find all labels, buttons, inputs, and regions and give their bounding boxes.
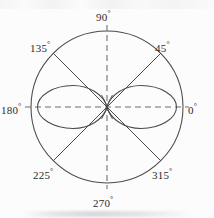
degree-symbol-icon: °: [194, 102, 197, 111]
polar-plot-canvas: [0, 0, 214, 218]
angle-label-270: 270°: [93, 196, 113, 209]
degree-symbol-icon: °: [47, 40, 50, 49]
degree-symbol-icon: °: [50, 167, 53, 176]
lemniscate-cusp-upper-left: [102, 95, 108, 107]
angle-label-315: 315°: [152, 168, 172, 181]
angle-label-225-value: 225: [33, 169, 50, 181]
degree-symbol-icon: °: [107, 9, 110, 18]
lemniscate-cusp-lower-left: [102, 107, 108, 119]
angle-label-90-value: 90: [96, 11, 107, 23]
angle-label-270-value: 270: [93, 197, 110, 209]
degree-symbol-icon: °: [166, 40, 169, 49]
angle-label-135-value: 135: [30, 42, 47, 54]
degree-symbol-icon: °: [18, 102, 21, 111]
angle-label-135: 135°: [30, 41, 50, 54]
degree-symbol-icon: °: [110, 195, 113, 204]
scan-artifact-bottom: [22, 211, 194, 217]
polar-plot-figure: 0° 45° 90° 135° 180° 225° 270° 315°: [0, 0, 214, 218]
angle-label-180-value: 180: [1, 104, 18, 116]
lemniscate-cusp-upper-right: [107, 95, 113, 107]
angle-label-90: 90°: [96, 10, 111, 23]
degree-symbol-icon: °: [169, 167, 172, 176]
angle-label-0: 0°: [188, 103, 197, 116]
angle-label-45: 45°: [155, 41, 170, 54]
angle-label-45-value: 45: [155, 42, 166, 54]
lemniscate-cusp-lower-right: [107, 107, 113, 119]
angle-label-315-value: 315: [152, 169, 169, 181]
angle-label-180: 180°: [1, 103, 21, 116]
angle-label-225: 225°: [33, 168, 53, 181]
